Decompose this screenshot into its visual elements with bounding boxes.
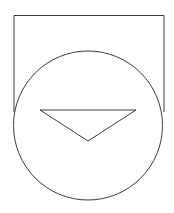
- diagram-canvas: [0, 0, 174, 213]
- background: [0, 0, 174, 213]
